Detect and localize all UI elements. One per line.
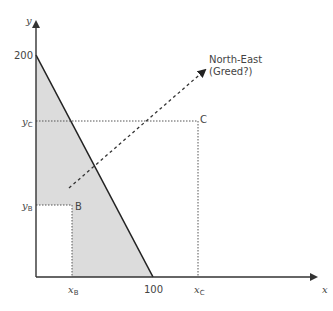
point-b-label: B xyxy=(75,201,82,212)
greed-label: (Greed?) xyxy=(209,66,253,77)
point-c-label: C xyxy=(200,114,207,125)
north-east-label: North-East xyxy=(209,54,262,65)
xc-label: xC xyxy=(194,284,205,297)
x-intercept-label: 100 xyxy=(144,284,163,295)
y-axis-label: y xyxy=(25,15,32,26)
diagram-canvas: y x 200 100 yC yB xB xC B C North-East (… xyxy=(0,0,333,311)
yc-label: yC xyxy=(21,116,33,129)
x-axis-label: x xyxy=(322,284,328,295)
y-intercept-label: 200 xyxy=(14,50,33,61)
yb-label: yB xyxy=(21,200,33,213)
xb-label: xB xyxy=(68,284,79,297)
